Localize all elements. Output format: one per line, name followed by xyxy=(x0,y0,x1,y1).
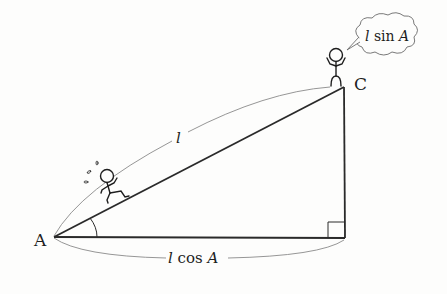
base-dimension-arc-left xyxy=(54,238,166,258)
hypotenuse-line xyxy=(54,87,344,237)
thought-bubble-tail xyxy=(347,37,360,50)
dimension-arcs xyxy=(54,87,344,258)
runner-figure-icon xyxy=(84,161,129,203)
standing-figure-icon xyxy=(327,49,345,87)
bubble-text-arg: A xyxy=(397,28,409,44)
base-label-arg: A xyxy=(205,249,218,267)
thought-bubble: l sin A xyxy=(347,13,418,55)
vertex-label-c: C xyxy=(354,74,367,94)
height-line xyxy=(344,87,345,238)
vertex-label-a: A xyxy=(33,230,47,250)
bubble-text-fn: sin xyxy=(369,28,399,44)
thought-bubble-text: l sin A xyxy=(365,28,409,44)
right-angle-mark xyxy=(328,222,345,238)
base-label: l cos A xyxy=(168,249,218,267)
angle-a-arc xyxy=(90,218,97,237)
triangle-diagram: A C l l cos A l sin A xyxy=(0,0,447,294)
hypotenuse-label: l xyxy=(176,129,181,147)
base-line xyxy=(54,237,345,238)
hypotenuse-dimension-arc-right xyxy=(188,87,330,132)
base-label-fn: cos xyxy=(173,249,208,267)
base-dimension-arc-right xyxy=(228,240,344,258)
hypotenuse-dimension-arc-left xyxy=(54,141,172,236)
